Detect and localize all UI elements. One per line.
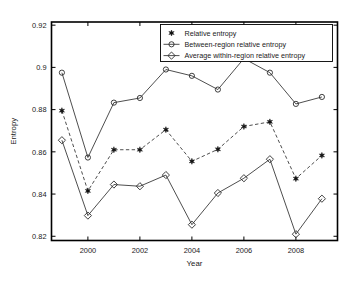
y-tick-label: 0.9 xyxy=(36,63,46,72)
y-tick-label: 0.82 xyxy=(32,232,46,241)
legend: Relative entropyBetween-region relative … xyxy=(161,25,333,62)
y-tick-label: 0.92 xyxy=(32,21,46,30)
series-line xyxy=(62,140,322,234)
y-tick-label: 0.84 xyxy=(32,190,46,199)
star-marker-icon xyxy=(319,152,324,158)
y-tick-label: 0.86 xyxy=(32,148,46,157)
x-tick-label: 2004 xyxy=(184,246,200,255)
y-axis-title: Entropy xyxy=(9,118,18,145)
x-tick-label: 2000 xyxy=(80,246,96,255)
star-marker-icon xyxy=(189,158,194,164)
legend-label: Relative entropy xyxy=(185,29,237,38)
legend-label: Average within-region relative entropy xyxy=(185,51,306,60)
x-tick-label: 2006 xyxy=(236,246,252,255)
series-2 xyxy=(58,137,325,238)
series-line xyxy=(62,111,322,191)
series-1 xyxy=(59,56,324,160)
y-tick-label: 0.88 xyxy=(32,105,46,114)
star-marker-icon xyxy=(293,176,298,182)
series-0 xyxy=(59,108,324,194)
x-tick-label: 2002 xyxy=(132,246,148,255)
entropy-line-chart: 0.820.840.860.880.90.9220002002200420062… xyxy=(0,0,352,287)
star-marker-icon xyxy=(59,108,64,114)
circle-marker-icon xyxy=(59,70,64,75)
chart-figure: 0.820.840.860.880.90.9220002002200420062… xyxy=(0,0,352,287)
legend-label: Between-region relative entropy xyxy=(185,40,287,49)
x-axis-title: Year xyxy=(187,259,203,268)
x-tick-label: 2008 xyxy=(288,246,304,255)
